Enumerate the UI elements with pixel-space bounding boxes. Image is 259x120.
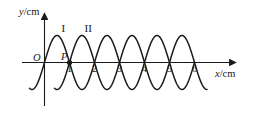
x-axis-label: x/cm: [215, 69, 235, 80]
origin-label: O: [33, 53, 41, 64]
x-axis-label-unit: /cm: [220, 68, 236, 79]
y-axis-label: y/cm: [19, 7, 39, 18]
curve-label-ii: II: [85, 23, 92, 34]
x-tick-1: 1: [67, 64, 72, 74]
y-axis-label-unit: /cm: [24, 6, 40, 17]
x-tick-6: 6: [192, 64, 197, 74]
x-tick-4: 4: [142, 64, 147, 74]
x-tick-3: 3: [117, 64, 122, 74]
wave-interference-figure: y/cm x/cm O P I II 1 2 3 4 5 6: [0, 0, 259, 120]
curve-label-i: I: [62, 23, 66, 34]
x-tick-2: 2: [92, 64, 97, 74]
point-p-label: P: [61, 52, 67, 63]
x-tick-5: 5: [167, 64, 172, 74]
